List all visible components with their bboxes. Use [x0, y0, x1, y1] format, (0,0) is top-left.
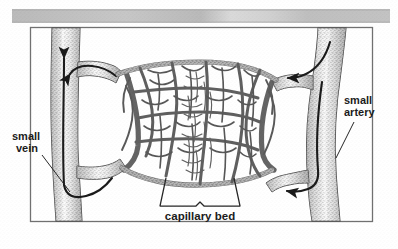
- illustration-stage: capillary bed small vein small artery: [0, 0, 398, 249]
- scan-noise-overlay: [0, 0, 398, 249]
